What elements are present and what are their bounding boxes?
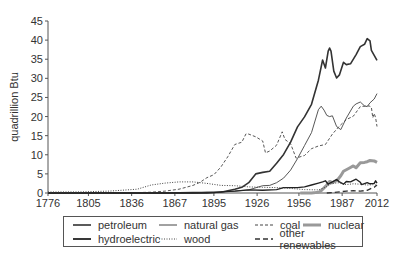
dotted-line-icon <box>158 235 178 243</box>
x-tick-label: 1895 <box>202 197 226 209</box>
legend-label: petroleum <box>98 219 147 231</box>
series-nuclear <box>300 161 377 194</box>
y-tick-label: 20 <box>31 111 43 123</box>
series-other-renewables <box>327 185 377 193</box>
y-tick-label: 15 <box>31 130 43 142</box>
y-tick-label: 10 <box>31 149 43 161</box>
legend-label: hydroelectric <box>98 233 160 245</box>
y-tick-label: 30 <box>31 72 43 84</box>
x-tick-label: 2012 <box>365 197 389 209</box>
long-dashed-line-icon <box>254 235 274 243</box>
legend-label: natural gas <box>184 219 238 231</box>
y-tick-label: 45 <box>31 15 43 27</box>
legend-item-other-renewables: other renewables <box>254 232 362 246</box>
series-natural-gas <box>48 94 377 193</box>
series-lines <box>48 39 377 193</box>
legend-item-petroleum: petroleum <box>72 218 147 232</box>
legend-label: other renewables <box>280 227 362 251</box>
series-coal <box>48 106 377 193</box>
x-tick-label: 1867 <box>163 197 187 209</box>
y-tick-label: 40 <box>31 34 43 46</box>
dashed-line-icon <box>254 221 274 229</box>
legend-item-hydroelectric: hydroelectric <box>72 232 160 246</box>
solid-line-icon <box>72 221 92 229</box>
x-tick-label: 1805 <box>76 197 100 209</box>
legend-item-wood: wood <box>158 232 210 246</box>
x-tick-label: 1836 <box>119 197 143 209</box>
y-axis-title: quadrillion Btu <box>8 72 20 142</box>
legend-label: wood <box>184 233 210 245</box>
y-tick-label: 35 <box>31 53 43 65</box>
x-tick-label: 1956 <box>287 197 311 209</box>
x-tick-label: 1926 <box>245 197 269 209</box>
thin-line-icon <box>158 221 178 229</box>
legend-item-natural-gas: natural gas <box>158 218 238 232</box>
x-tick-label: 1987 <box>330 197 354 209</box>
y-tick-label: 25 <box>31 91 43 103</box>
medium-line-icon <box>72 235 92 243</box>
x-tick-label: 1776 <box>36 197 60 209</box>
legend: petroleum natural gas coal nuclear hydro… <box>63 216 363 247</box>
y-tick-label: 5 <box>37 168 43 180</box>
